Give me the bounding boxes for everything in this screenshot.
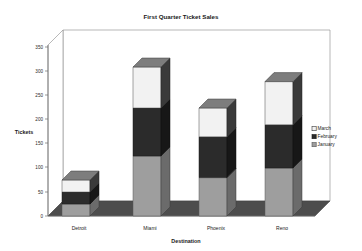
- y-tick-label: 150: [35, 141, 43, 146]
- x-tick-label-miami: Miami: [143, 225, 156, 231]
- bar-segment-march[interactable]: [62, 180, 90, 192]
- y-tick-label: 200: [35, 117, 43, 122]
- y-tick-label: 250: [35, 93, 43, 98]
- bar-segment-january[interactable]: [133, 156, 161, 216]
- legend-label-january[interactable]: January: [318, 142, 336, 147]
- bar-segment-february[interactable]: [133, 108, 161, 156]
- y-tick-label: 300: [35, 69, 43, 74]
- bar-segment-february[interactable]: [265, 125, 293, 168]
- bar-side-january: [161, 147, 170, 216]
- y-axis-label: Tickets: [15, 129, 33, 135]
- bar-segment-january[interactable]: [62, 204, 90, 216]
- x-tick-label-detroit: Detroit: [72, 225, 87, 231]
- chart-title: First Quarter Ticket Sales: [144, 13, 219, 20]
- ticket-sales-3d-column-chart: First Quarter Ticket Sales 350 300 250 2…: [0, 0, 362, 251]
- bar-segment-february[interactable]: [62, 192, 90, 204]
- bar-group-reno[interactable]: [265, 73, 302, 216]
- legend-swatch-january: [312, 143, 316, 147]
- bar-segment-march[interactable]: [133, 67, 161, 108]
- bar-segment-march[interactable]: [199, 108, 227, 137]
- y-tick-label: 0: [40, 214, 43, 219]
- y-tick-label: 50: [38, 190, 44, 195]
- legend-label-february[interactable]: February: [318, 134, 338, 139]
- y-tick-label: 350: [35, 45, 43, 50]
- legend-swatch-march: [312, 127, 316, 131]
- bar-segment-january[interactable]: [199, 178, 227, 216]
- bar-group-miami[interactable]: [133, 58, 170, 216]
- bar-side-january: [293, 159, 302, 216]
- bar-segment-march[interactable]: [265, 82, 293, 125]
- plot-left-wall: [48, 30, 63, 216]
- bar-segment-january[interactable]: [265, 168, 293, 216]
- chart-container: First Quarter Ticket Sales 350 300 250 2…: [0, 0, 362, 251]
- legend-label-march[interactable]: March: [318, 126, 332, 131]
- legend-swatch-february: [312, 135, 316, 139]
- x-axis-label: Destination: [171, 238, 200, 244]
- bar-group-detroit[interactable]: [62, 171, 99, 216]
- x-tick-label-phoenix: Phoenix: [207, 225, 226, 231]
- bar-side-february: [161, 99, 170, 156]
- bar-group-phoenix[interactable]: [199, 99, 236, 216]
- x-tick-label-reno: Reno: [276, 225, 288, 231]
- y-tick-label: 100: [35, 165, 43, 170]
- bar-segment-february[interactable]: [199, 137, 227, 178]
